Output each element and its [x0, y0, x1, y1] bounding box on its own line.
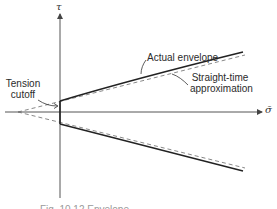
figure-caption: Fig. 10.12 Envelope	[40, 204, 129, 209]
tension-cutoff-label: Tension cutoff	[2, 78, 44, 100]
straight-approximation-label-line2: approximation	[190, 83, 250, 94]
lower-straight-approximation-line	[18, 112, 245, 168]
straight-approximation-label: Straight-time approximation	[190, 72, 250, 94]
failure-envelope-diagram	[0, 0, 277, 209]
sigma-axis-label: σ̄	[265, 104, 272, 115]
tension-cutoff-label-line1: Tension	[2, 78, 44, 89]
tau-axis-label: τ	[56, 1, 62, 12]
actual-envelope-label: Actual envelope	[147, 52, 218, 63]
straight-approximation-label-line1: Straight-time	[190, 72, 250, 83]
straight-approximation-leader	[172, 74, 188, 85]
lower-actual-envelope	[60, 124, 243, 171]
actual-envelope-leader	[141, 60, 146, 74]
tension-cutoff-label-line2: cutoff	[2, 89, 44, 100]
